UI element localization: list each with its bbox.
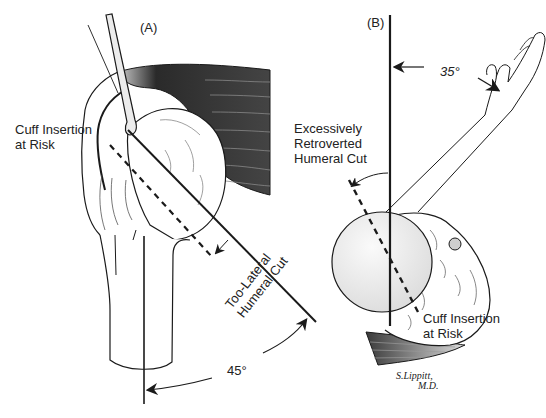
retroverted-cut-label: Excessively Retroverted Humeral Cut	[294, 121, 367, 166]
cuff-insertion-label-a: Cuff Insertion at Risk	[15, 122, 92, 152]
panel-label-a: (A)	[140, 20, 157, 35]
panel-label-b: (B)	[367, 15, 384, 30]
angle-45-label: 45°	[227, 363, 247, 378]
coracoid-b	[449, 238, 461, 250]
humeral-head-b	[332, 212, 432, 312]
cuff-insertion-label-b: Cuff Insertion at Risk	[423, 311, 500, 341]
panel-a-drawing	[82, 14, 316, 404]
forearm-b	[386, 33, 545, 212]
angle-35-label: 35°	[440, 64, 460, 79]
illustration-canvas	[0, 0, 546, 418]
humeral-shaft-a	[100, 235, 190, 369]
humeral-head-a	[127, 109, 225, 240]
capsule-a	[82, 72, 118, 235]
signature: S.Lippitt, M.D.	[396, 371, 439, 391]
